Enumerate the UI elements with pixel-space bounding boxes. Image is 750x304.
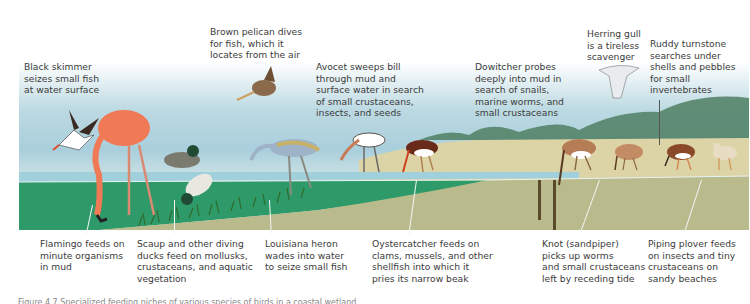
label-flamingo: Flamingo feeds on minute organisms in mu… <box>40 238 125 273</box>
label-piping-plover: Piping plover feeds on insects and tiny … <box>648 238 736 284</box>
label-ruddy-turnstone: Ruddy turnstone searches under shells an… <box>650 38 735 96</box>
label-dowitcher: Dowitcher probes deeply into mud in sear… <box>475 61 564 119</box>
leader-line-turnstone <box>659 100 660 145</box>
label-black-skimmer: Black skimmer seizes small fish at water… <box>24 61 99 96</box>
label-herring-gull: Herring gull is a tireless scavenger <box>587 28 641 63</box>
herring-gull-illustration <box>599 65 639 98</box>
label-oystercatcher: Oystercatcher feeds on clams, mussels, a… <box>372 238 493 284</box>
scaup-duck-surface <box>164 145 200 168</box>
black-skimmer-illustration <box>53 110 99 150</box>
leader-line-scaup <box>174 200 175 234</box>
label-avocet: Avocet sweeps bill through mud and surfa… <box>316 61 424 119</box>
distant-hills <box>419 97 749 140</box>
figure-caption: Figure 4.7 Specialized feeding niches of… <box>18 298 356 304</box>
worm-burrow <box>553 180 556 230</box>
brown-pelican-illustration <box>237 66 276 100</box>
label-scaup: Scaup and other diving ducks feed on mol… <box>137 238 253 284</box>
label-knot: Knot (sandpiper) picks up worms and smal… <box>542 238 645 284</box>
worm-burrow <box>538 180 541 220</box>
label-louisiana-heron: Louisiana heron wades into water to seiz… <box>265 238 347 273</box>
label-brown-pelican: Brown pelican dives for fish, which it l… <box>210 26 302 61</box>
